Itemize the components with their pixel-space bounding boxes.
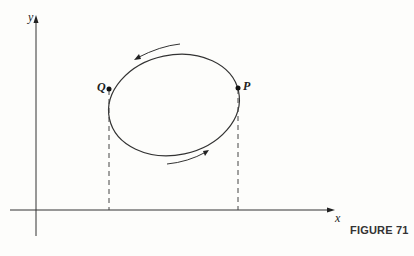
point-q-dot [107, 87, 112, 92]
closed-curve [99, 42, 249, 167]
figure-diagram [0, 0, 414, 256]
point-p-label: P [243, 79, 250, 94]
figure-caption: FIGURE 71 [350, 224, 409, 236]
x-axis-label: x [335, 211, 340, 226]
y-axis-label: y [28, 10, 33, 25]
y-axis-arrow-icon [34, 15, 39, 23]
point-q-label: Q [97, 80, 106, 95]
y-axis [34, 15, 39, 236]
bottom-direction-arrow-icon [167, 150, 209, 164]
point-p-dot [236, 86, 241, 91]
x-axis [10, 208, 335, 213]
x-axis-arrow-icon [327, 208, 335, 213]
